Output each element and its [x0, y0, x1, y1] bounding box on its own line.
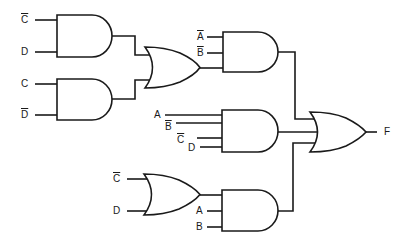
label-and4-a: A	[154, 110, 161, 120]
or-gate-final	[310, 112, 377, 152]
label-and4-c-bar: C	[177, 135, 184, 145]
label-or3-d: D	[113, 206, 120, 216]
label-and1-d: D	[21, 47, 28, 57]
and-gate-5	[207, 143, 315, 231]
label-output-f: F	[384, 127, 390, 137]
label-and2-c: C	[21, 79, 28, 89]
label-and1-c-bar: C	[21, 15, 28, 25]
and-gate-3	[207, 32, 315, 119]
label-and2-d-bar: D	[21, 110, 28, 120]
label-and5-b: B	[196, 222, 203, 232]
label-and4-d: D	[188, 143, 195, 153]
and-gate-1	[35, 15, 151, 57]
label-and4-b-bar: B	[165, 122, 172, 132]
label-and3-a-bar: A	[197, 32, 204, 42]
logic-circuit	[0, 0, 411, 245]
and-gate-2	[35, 79, 151, 120]
label-or3-c-bar: C	[113, 174, 120, 184]
label-and5-a: A	[196, 206, 203, 216]
label-and3-b-bar: B	[197, 48, 204, 58]
or-gate-3	[127, 174, 222, 215]
